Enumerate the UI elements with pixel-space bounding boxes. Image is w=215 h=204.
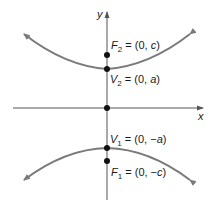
vertex-v2-point [104, 66, 110, 72]
label-v1: V1 = (0, −a) [110, 133, 166, 148]
vertex-v1-point [104, 145, 110, 151]
focus-f2-point [104, 52, 110, 58]
label-f1: F1 = (0, −c) [111, 166, 166, 181]
label-f2: F2 = (0, c) [111, 39, 160, 54]
label-v2: V2 = (0, a) [110, 73, 160, 88]
y-axis-label: y [96, 8, 104, 20]
x-axis-label: x [197, 110, 204, 122]
focus-f1-point [104, 158, 110, 164]
origin-point [104, 105, 110, 111]
hyperbola-diagram: y x F2 = (0, c) V2 = (0, a) V1 = (0, −a)… [0, 0, 215, 204]
